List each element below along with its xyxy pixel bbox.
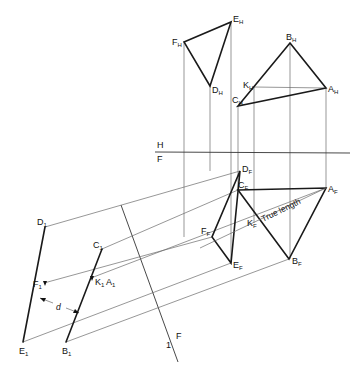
- svg-text:E1: E1: [19, 346, 29, 357]
- distance-dimension: d: [40, 298, 79, 313]
- svg-text:AH: AH: [328, 84, 338, 95]
- svg-text:AF: AF: [328, 184, 338, 195]
- fold-label-1: 1: [166, 340, 171, 350]
- true-length-label: True length: [259, 196, 302, 224]
- svg-text:CF: CF: [238, 180, 249, 191]
- svg-text:KF: KF: [247, 218, 257, 229]
- descriptive-geometry-diagram: H F 1 F d True length EH FH DH BH AH: [0, 0, 363, 366]
- svg-text:d: d: [56, 302, 61, 312]
- svg-text:A1: A1: [106, 277, 116, 288]
- svg-text:FH: FH: [172, 37, 182, 48]
- svg-text:FF: FF: [201, 226, 211, 237]
- svg-text:F1: F1: [33, 279, 43, 290]
- labels-top-view: EH FH DH BH AH KH CH: [172, 14, 338, 106]
- fold-label-h: H: [157, 140, 164, 150]
- k-horizontal-line: [254, 87, 326, 88]
- svg-text:B1: B1: [62, 346, 72, 357]
- triangle-def-top-view: [184, 22, 231, 86]
- svg-text:EH: EH: [233, 14, 243, 25]
- svg-text:D1: D1: [37, 217, 48, 228]
- fold-label-f: F: [157, 154, 163, 164]
- svg-text:BH: BH: [286, 32, 296, 43]
- svg-text:KH: KH: [243, 80, 253, 91]
- svg-text:EF: EF: [233, 260, 243, 271]
- edge-view-abc: [66, 249, 102, 342]
- triangle-abc-top-view: [238, 43, 326, 106]
- fold-label-f-aux: F: [176, 331, 182, 341]
- triangle-def-front-view: [212, 171, 240, 263]
- f1-marker: [43, 281, 47, 286]
- svg-text:DF: DF: [242, 164, 253, 175]
- aux-projectors: [23, 171, 326, 342]
- svg-text:C1: C1: [93, 240, 104, 251]
- svg-text:DH: DH: [212, 85, 223, 96]
- svg-text:BF: BF: [292, 256, 302, 267]
- svg-text:K1: K1: [95, 277, 105, 288]
- svg-text:CH: CH: [232, 95, 243, 106]
